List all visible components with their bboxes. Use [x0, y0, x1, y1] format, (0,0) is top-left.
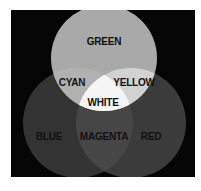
venn-diagram: GREEN CYAN YELLOW WHITE BLUE MAGENTA RED	[0, 0, 201, 191]
label-yellow: YELLOW	[113, 77, 155, 88]
label-blue: BLUE	[36, 131, 63, 142]
label-cyan: CYAN	[59, 77, 86, 88]
label-white: WHITE	[87, 97, 119, 108]
label-red: RED	[141, 131, 162, 142]
venn-svg: GREEN CYAN YELLOW WHITE BLUE MAGENTA RED	[0, 0, 201, 191]
label-green: GREEN	[87, 36, 122, 47]
label-magenta: MAGENTA	[80, 131, 128, 142]
